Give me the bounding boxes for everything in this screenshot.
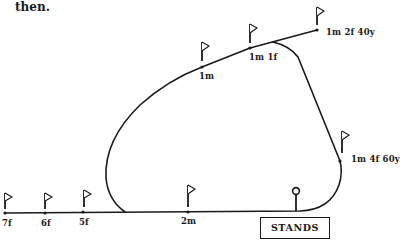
marker-label-1m-1f: 1m 1f (249, 52, 277, 62)
flag-icon-6f (45, 193, 52, 209)
home-straight (5, 161, 341, 213)
flag-icon-1m2f40y (317, 7, 324, 25)
marker-label-1m-4f-60y: 1m 4f 60y (351, 154, 400, 164)
marker-label-7f: 7f (2, 218, 12, 228)
stands-label: STANDS (260, 217, 330, 239)
flag-icon-2m (188, 185, 195, 207)
marker-label-5f: 5f (79, 217, 89, 227)
flag-icon-1m (202, 42, 209, 61)
flag-icon-1m4f60y (342, 131, 349, 153)
flag-icon-5f (84, 190, 91, 207)
marker-label-6f: 6f (41, 218, 51, 228)
marker-label-1m-2f-40y: 1m 2f 40y (326, 27, 375, 37)
winning-post-icon (293, 188, 300, 211)
flag-icon-1m1f (250, 24, 257, 43)
marker-label-2m: 2m (181, 216, 196, 226)
right-chute (273, 42, 340, 161)
marker-label-1m: 1m (199, 71, 214, 81)
flag-icon-7f (5, 193, 12, 209)
